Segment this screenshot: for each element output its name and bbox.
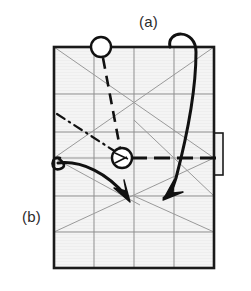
right-edge-flap <box>214 133 223 175</box>
pivot-circle-top <box>91 37 111 57</box>
label-a: (a) <box>139 13 158 30</box>
label-b: (b) <box>22 208 41 225</box>
pivot-circle-center <box>112 148 132 168</box>
origami-fold-diagram <box>0 0 251 291</box>
